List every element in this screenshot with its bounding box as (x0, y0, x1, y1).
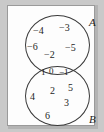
set-a-member: −6 (27, 42, 38, 52)
venn-diagram-figure: A B −4 −3 −6 −5 −2 1 0 −1 4 2 5 3 6 (0, 0, 104, 132)
set-a-label: A (89, 17, 96, 28)
diagram-plate: A B −4 −3 −6 −5 −2 1 0 −1 4 2 5 3 6 (7, 5, 95, 126)
intersection-member: 1 (41, 68, 46, 77)
set-b-label: B (89, 114, 96, 125)
plate-shadow-bottom (8, 126, 98, 129)
set-a-member: −5 (65, 43, 76, 53)
set-b-member: 4 (30, 92, 35, 102)
set-b-member: 3 (64, 98, 69, 108)
set-a-member: −2 (44, 50, 55, 60)
intersection-member: 0 (49, 67, 54, 76)
set-a-member: −4 (33, 26, 44, 36)
set-b-member: 2 (50, 86, 55, 96)
set-b-member: 5 (68, 83, 73, 93)
set-b-member: 6 (45, 111, 50, 121)
intersection-member: −1 (59, 68, 69, 77)
set-a-member: −3 (59, 23, 70, 33)
